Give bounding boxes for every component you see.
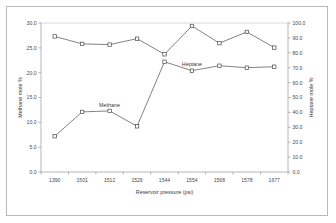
y-left-tick-label: 10.0 [27,119,37,125]
y-right-tick-label: 40.0 [293,109,303,115]
data-point-marker [190,24,193,27]
data-point-marker [108,43,111,46]
y-axis-right-tick-labels: 0.010.020.030.040.050.060.070.080.090.01… [293,20,306,175]
y-left-tick-label: 25.0 [27,45,37,51]
y-right-tick-label: 100.0 [293,20,306,26]
series-annotation-heptane: Heptane [182,61,202,67]
data-point-marker [53,35,56,38]
series-annotation-methane: Methane [99,102,120,108]
x-tick-label: 1568 [214,177,225,183]
data-point-marker [273,65,276,68]
x-tick-label: 1554 [186,177,197,183]
y-left-tick-label: 15.0 [27,94,37,100]
data-point-marker [53,135,56,138]
y-right-tick-label: 0.0 [293,169,300,175]
y-right-tick-label: 60.0 [293,80,303,86]
chart-plot-area: 139015011512152915441554156815781677 0.0… [0,0,336,223]
y-axis-left-tick-labels: 0.05.010.015.020.025.030.0 [27,20,37,175]
data-point-marker [245,30,248,33]
y-axis-left-title: Methane mole % [17,77,23,118]
x-tick-labels: 139015011512152915441554156815781677 [49,177,280,183]
data-point-marker [135,37,138,40]
x-tick-label: 1529 [131,177,142,183]
series-methane [53,60,276,138]
data-point-marker [163,53,166,56]
data-point-marker [108,109,111,112]
y-left-tick-label: 30.0 [27,20,37,26]
y-right-tick-label: 10.0 [293,154,303,160]
data-point-marker [245,66,248,69]
x-axis-title: Reservoir pressure (psi) [136,189,194,195]
series-heptane [53,24,276,56]
data-point-marker [163,60,166,63]
x-tick-label: 1501 [76,177,87,183]
y-right-tick-label: 20.0 [293,139,303,145]
data-point-marker [273,46,276,49]
data-point-marker [80,42,83,45]
y-axis-right-title: Heptane mole % [308,77,314,117]
y-right-tick-label: 50.0 [293,94,303,100]
y-left-tick-label: 20.0 [27,70,37,76]
x-tick-label: 1544 [159,177,170,183]
data-point-marker [135,125,138,128]
y-right-tick-label: 70.0 [293,65,303,71]
x-tick-label: 1677 [269,177,280,183]
y-right-tick-label: 30.0 [293,124,303,130]
x-tick-label: 1578 [241,177,252,183]
chart-figure: 139015011512152915441554156815781677 0.0… [0,0,336,223]
axes-frame [41,23,288,172]
series-annotations: MethaneHeptane [99,61,202,107]
data-point-marker [80,110,83,113]
y-right-tick-label: 90.0 [293,35,303,41]
y-right-tick-label: 80.0 [293,50,303,56]
x-tick-label: 1390 [49,177,60,183]
axis-ticks [38,23,290,175]
x-tick-label: 1512 [104,177,115,183]
data-point-marker [218,41,221,44]
y-left-tick-label: 5.0 [29,144,36,150]
y-left-tick-label: 0.0 [29,169,36,175]
data-point-marker [190,69,193,72]
data-point-marker [218,64,221,67]
data-series-group [53,24,276,138]
